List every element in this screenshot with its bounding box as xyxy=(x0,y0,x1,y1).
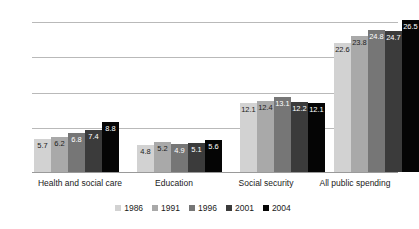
bar: 26.5 xyxy=(402,20,419,172)
category-label: Health and social care xyxy=(32,176,128,190)
bar-value-label: 5.6 xyxy=(208,142,218,151)
legend-label: 2001 xyxy=(235,203,254,213)
category-label: All public spending xyxy=(312,176,398,190)
bar: 5.1 xyxy=(188,143,205,172)
legend-item[interactable]: 1991 xyxy=(152,203,180,213)
bar-value-label: 7.4 xyxy=(88,132,98,141)
bar-value-label: 12.2 xyxy=(292,104,307,113)
bar: 13.1 xyxy=(274,97,291,172)
category-axis-labels: Health and social careEducationSocial se… xyxy=(32,176,398,190)
bar-value-label: 26.5 xyxy=(403,22,418,31)
legend-swatch xyxy=(189,205,195,211)
bar: 12.4 xyxy=(257,101,274,172)
legend-item[interactable]: 1996 xyxy=(189,203,217,213)
bar: 24.8 xyxy=(368,30,385,172)
bar-value-label: 8.8 xyxy=(105,124,115,133)
bar-value-label: 12.4 xyxy=(258,103,273,112)
bar-value-label: 6.8 xyxy=(71,135,81,144)
bar-group: 12.112.413.112.212.1 xyxy=(222,6,325,172)
bar: 4.8 xyxy=(137,145,154,172)
bar: 22.6 xyxy=(334,43,351,172)
bar: 5.2 xyxy=(154,142,171,172)
bar-group: 4.85.24.95.15.6 xyxy=(119,6,222,172)
bar-value-label: 22.6 xyxy=(335,45,350,54)
legend-swatch xyxy=(152,205,158,211)
legend-swatch xyxy=(115,205,121,211)
bar: 7.4 xyxy=(85,130,102,172)
legend-swatch xyxy=(226,205,232,211)
bar: 8.8 xyxy=(102,122,119,172)
bar-value-label: 12.1 xyxy=(241,105,256,114)
bar: 5.6 xyxy=(205,140,222,172)
bar-group: 22.623.824.824.726.5 xyxy=(325,6,419,172)
legend-label: 2004 xyxy=(272,203,291,213)
bar-value-label: 5.2 xyxy=(157,144,167,153)
bar-value-label: 23.8 xyxy=(352,38,367,47)
bar-value-label: 13.1 xyxy=(275,99,290,108)
plot-area: 5.76.26.87.48.84.85.24.95.15.612.112.413… xyxy=(32,6,398,173)
legend-swatch xyxy=(263,205,269,211)
bar: 12.1 xyxy=(240,103,257,172)
legend-item[interactable]: 2001 xyxy=(226,203,254,213)
bar: 12.1 xyxy=(308,103,325,172)
bar: 23.8 xyxy=(351,36,368,172)
chart-legend: 19861991199620012004 xyxy=(0,203,406,213)
bar: 5.7 xyxy=(34,139,51,172)
bar-groups: 5.76.26.87.48.84.85.24.95.15.612.112.413… xyxy=(32,6,398,172)
bar-group: 5.76.26.87.48.8 xyxy=(32,6,119,172)
legend-label: 1996 xyxy=(198,203,217,213)
bar-value-label: 12.1 xyxy=(309,105,324,114)
bar-value-label: 6.2 xyxy=(54,139,64,148)
legend-item[interactable]: 2004 xyxy=(263,203,291,213)
legend-label: 1991 xyxy=(161,203,180,213)
bar: 4.9 xyxy=(171,144,188,172)
bar: 6.2 xyxy=(51,137,68,172)
category-label: Social security xyxy=(220,176,312,190)
category-label: Education xyxy=(128,176,220,190)
legend-item[interactable]: 1986 xyxy=(115,203,143,213)
bar-value-label: 24.8 xyxy=(369,32,384,41)
bar: 12.2 xyxy=(291,102,308,172)
axis-baseline xyxy=(32,172,398,173)
bar-value-label: 24.7 xyxy=(386,33,401,42)
bar-value-label: 5.7 xyxy=(37,141,47,150)
bar-value-label: 4.9 xyxy=(174,146,184,155)
legend-label: 1986 xyxy=(124,203,143,213)
bar-value-label: 4.8 xyxy=(140,147,150,156)
bar: 24.7 xyxy=(385,31,402,172)
bar-value-label: 5.1 xyxy=(191,145,201,154)
bar: 6.8 xyxy=(68,133,85,172)
